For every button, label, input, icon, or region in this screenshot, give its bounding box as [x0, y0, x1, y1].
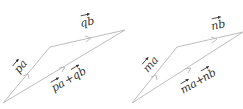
arrow-sum-icon: [185, 68, 191, 73]
edge-ma: [132, 47, 177, 103]
label-pa: pa: [11, 57, 30, 76]
label-qb: qb: [79, 14, 95, 30]
vector-addition-figure: pa qb pa + qb ma nb: [0, 0, 243, 109]
label-ma: ma: [140, 54, 161, 75]
label-nb: nb: [210, 17, 227, 33]
edge-qb: [50, 30, 125, 47]
right-triangle: ma nb ma + nb: [132, 16, 243, 103]
left-triangle: pa qb pa + qb: [3, 13, 125, 103]
edge-nb: [177, 32, 243, 47]
